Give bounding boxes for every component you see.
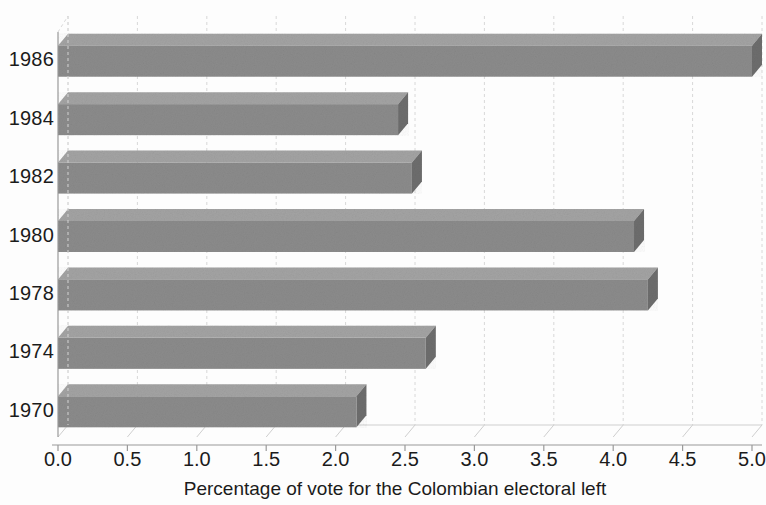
plot-area bbox=[0, 0, 766, 505]
floor-connector-4.5 bbox=[683, 425, 693, 437]
x-axis-label-4.0: 4.0 bbox=[599, 448, 627, 471]
floor-connector-3.5 bbox=[544, 425, 554, 437]
floor-connector-3.0 bbox=[474, 425, 484, 437]
x-axis-label-4.5: 4.5 bbox=[669, 448, 697, 471]
bar-grain-1970 bbox=[58, 384, 366, 427]
x-axis-label-0.5: 0.5 bbox=[113, 448, 141, 471]
x-axis-label-3.5: 3.5 bbox=[530, 448, 558, 471]
bar-grain-1984 bbox=[58, 92, 408, 135]
floor-connector-2.5 bbox=[405, 425, 415, 437]
bar-grain-1974 bbox=[58, 326, 436, 369]
floor-connector-4.0 bbox=[613, 425, 623, 437]
x-axis-label-1.0: 1.0 bbox=[183, 448, 211, 471]
bar-grain-texture bbox=[58, 34, 762, 428]
x-axis-label-5.0: 5.0 bbox=[738, 448, 766, 471]
y-axis-top-connector bbox=[58, 16, 68, 32]
bar-grain-1982 bbox=[58, 151, 422, 194]
x-axis-labels: 0.00.51.01.52.02.53.03.54.04.55.0 bbox=[0, 448, 766, 476]
x-axis-label-3.0: 3.0 bbox=[460, 448, 488, 471]
x-axis-label-0.0: 0.0 bbox=[44, 448, 72, 471]
bar-grain-1978 bbox=[58, 267, 658, 310]
bar-chart: 1986198419821980197819741970 0.00.51.01.… bbox=[0, 0, 766, 505]
floor-connector-5.0 bbox=[752, 425, 762, 437]
x-axis-label-2.0: 2.0 bbox=[322, 448, 350, 471]
x-axis-title: Percentage of vote for the Colombian ele… bbox=[0, 478, 766, 500]
bar-grain-1986 bbox=[58, 34, 762, 77]
x-axis-label-2.5: 2.5 bbox=[391, 448, 419, 471]
bar-grain-1980 bbox=[58, 209, 644, 252]
x-axis-label-1.5: 1.5 bbox=[252, 448, 280, 471]
